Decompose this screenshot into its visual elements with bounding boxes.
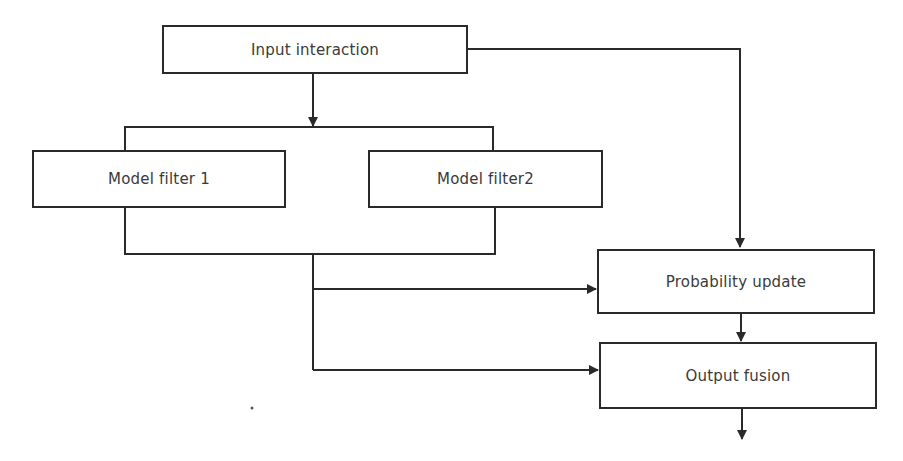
node-input-interaction: Input interaction	[162, 25, 468, 74]
node-probability-update: Probability update	[597, 249, 875, 314]
node-label: Model filter2	[437, 170, 534, 188]
node-output-fusion: Output fusion	[599, 342, 877, 409]
node-model-filter-2: Model filter2	[368, 150, 603, 208]
node-label: Probability update	[666, 273, 807, 291]
stray-dot	[251, 407, 254, 410]
top-bracket	[125, 127, 493, 150]
node-label: Output fusion	[686, 367, 791, 385]
node-label: Model filter 1	[108, 170, 210, 188]
arrow-input-to-probability	[467, 49, 740, 247]
node-label: Input interaction	[251, 41, 379, 59]
node-model-filter-1: Model filter 1	[32, 150, 286, 208]
bottom-bracket	[125, 207, 495, 254]
